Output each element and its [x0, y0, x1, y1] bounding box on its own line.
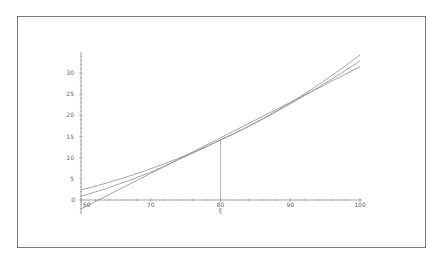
y-tick-label: 20 — [66, 111, 74, 118]
y-tick-label: 5 — [70, 175, 74, 182]
chart-plot: 60708090100051015202530ξ — [0, 0, 444, 264]
y-tick-label: 25 — [66, 90, 74, 97]
y-tick-label: 15 — [66, 133, 74, 140]
y-tick-label: 0 — [71, 196, 75, 203]
x-tick-label: 100 — [354, 201, 366, 208]
y-tick-label: 10 — [66, 154, 74, 161]
xi-label: ξ — [219, 207, 222, 215]
y-tick-label: 30 — [66, 69, 74, 76]
x-tick-label: 90 — [286, 201, 294, 208]
x-tick-label: 70 — [147, 201, 155, 208]
